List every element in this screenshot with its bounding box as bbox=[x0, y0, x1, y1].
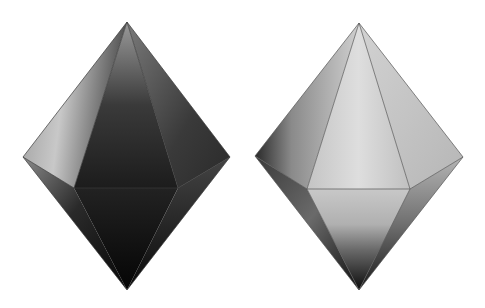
dark-bipyramid bbox=[23, 22, 230, 290]
figure-canvas bbox=[0, 0, 485, 308]
light-bipyramid bbox=[255, 23, 463, 290]
